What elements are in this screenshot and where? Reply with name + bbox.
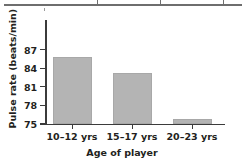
bar-15-17-yrs xyxy=(113,73,152,123)
y-tick-78: 78 xyxy=(40,105,45,106)
y-axis-line xyxy=(45,20,47,125)
x-tick-label-10-12-yrs: 10–12 yrs xyxy=(46,131,97,142)
bar-10-12-yrs xyxy=(53,57,92,124)
y-tick-label-84: 84 xyxy=(24,63,37,74)
y-tick-81: 81 xyxy=(40,86,45,87)
x-tick-label-15-17-yrs: 15–17 yrs xyxy=(106,131,157,142)
x-tick-15-17-yrs xyxy=(132,124,133,129)
x-tick-label-20-23-yrs: 20–23 yrs xyxy=(166,131,217,142)
y-tick-label-81: 81 xyxy=(24,81,37,92)
x-tick-10-12-yrs xyxy=(72,124,73,129)
y-axis-title: Pulse rate (beats/min) xyxy=(7,17,18,129)
y-tick-label-78: 78 xyxy=(24,100,37,111)
bar-20-23-yrs xyxy=(173,119,212,124)
table-column-separator xyxy=(97,0,98,5)
chart-figure: 75 78 81 84 87 10–12 yrs 15–17 yrs 20–23… xyxy=(0,0,244,166)
bar-chart: 75 78 81 84 87 10–12 yrs 15–17 yrs 20–23… xyxy=(0,11,244,166)
y-tick-label-87: 87 xyxy=(24,44,37,55)
table-column-separator xyxy=(160,0,161,5)
x-axis-title: Age of player xyxy=(0,147,244,158)
table-border-rule xyxy=(4,4,242,6)
y-tick-label-75: 75 xyxy=(24,118,37,129)
x-tick-20-23-yrs xyxy=(192,124,193,129)
y-tick-87: 87 xyxy=(40,49,45,50)
y-tick-75: 75 xyxy=(40,123,45,124)
table-column-separator xyxy=(223,0,224,5)
y-tick-84: 84 xyxy=(40,68,45,69)
cropped-table-bottom-border xyxy=(0,0,244,11)
